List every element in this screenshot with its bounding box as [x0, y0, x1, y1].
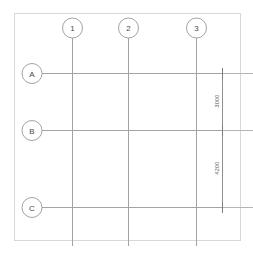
column-grid-bubbles: 1 2 3	[63, 18, 207, 38]
grid-bubble-a[interactable]: A	[22, 64, 42, 84]
architectural-grid-drawing: 1 2 3 A B C	[0, 0, 253, 255]
grid-bubble-label: B	[29, 127, 34, 136]
grid-bubble-label: 1	[70, 24, 75, 33]
grid-bubble-b[interactable]: B	[22, 121, 42, 141]
grid-bubble-1[interactable]: 1	[63, 18, 83, 38]
dimension-value-ab: 3000	[214, 94, 220, 107]
dimension-value-bc: 4200	[214, 161, 220, 174]
dimension-string: 3000 4200	[214, 68, 253, 213]
grid-bubble-label: 3	[194, 24, 199, 33]
grid-bubble-label: A	[29, 70, 35, 79]
grid-bubble-label: C	[29, 204, 35, 213]
grid-bubble-label: 2	[126, 24, 131, 33]
grid-bubble-c[interactable]: C	[22, 198, 42, 218]
grid-bubble-2[interactable]: 2	[119, 18, 139, 38]
sheet-border	[15, 14, 241, 241]
column-gridlines	[73, 38, 197, 246]
row-gridlines	[42, 74, 253, 208]
grid-bubble-3[interactable]: 3	[187, 18, 207, 38]
row-grid-bubbles: A B C	[22, 64, 42, 218]
